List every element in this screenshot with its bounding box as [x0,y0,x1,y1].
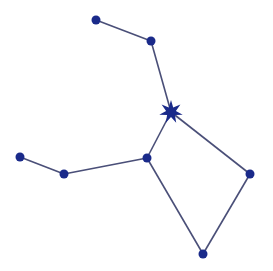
node-dot-n1 [92,16,101,25]
node-dot-n7 [60,170,69,179]
edge-n2-star [151,41,171,112]
edges [20,20,250,254]
node-dot-n5 [246,170,255,179]
node-dot-n4 [143,154,152,163]
edge-n5-n6 [203,174,250,254]
edge-n6-n4 [147,158,203,254]
edge-star-n5 [171,112,250,174]
node-dot-n6 [199,250,208,259]
edge-n7-n8 [20,157,64,174]
constellation-diagram [0,0,273,271]
nodes [16,16,255,259]
edge-n1-n2 [96,20,151,41]
edge-n4-n7 [64,158,147,174]
node-dot-n2 [147,37,156,46]
node-dot-n8 [16,153,25,162]
